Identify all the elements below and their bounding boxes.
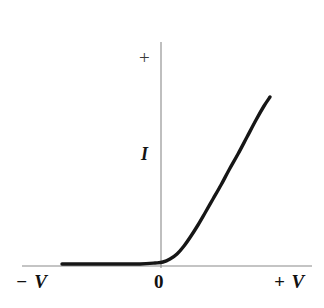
diode-iv-characteristic-figure: + I 0 − V + V	[0, 0, 324, 308]
positive-current-marker: +	[139, 48, 150, 67]
positive-voltage-label: + V	[274, 272, 305, 291]
origin-label: 0	[154, 272, 164, 291]
current-axis-label: I	[141, 145, 148, 163]
negative-voltage-label: − V	[16, 272, 48, 291]
diode-iv-curve	[62, 97, 270, 264]
plot-area	[0, 0, 324, 308]
